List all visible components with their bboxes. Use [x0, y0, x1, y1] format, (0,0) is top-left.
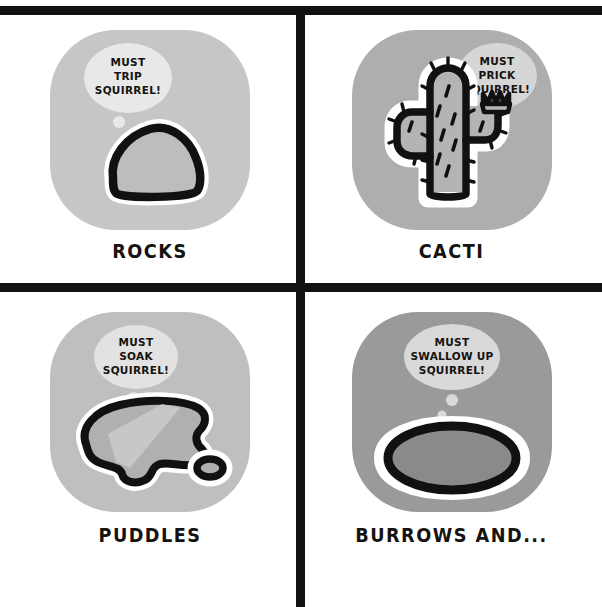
bubble-line-3: SQUIRREL!	[418, 364, 484, 376]
bubble-line-2: SOAK	[119, 350, 153, 362]
bubble-line-1: MUST	[111, 56, 146, 68]
burrow-scene: MUST SWALLOW UP SQUIRREL!	[352, 312, 552, 512]
thought-bubble-dot	[446, 394, 458, 406]
rock-body	[113, 128, 201, 197]
bubble-line-2: TRIP	[114, 70, 142, 82]
rock-icon	[113, 128, 201, 197]
panel-burrows-tile: MUST SWALLOW UP SQUIRREL!	[352, 312, 552, 512]
bubble-line-2: PRICK	[478, 69, 516, 81]
bubble-line-3: SQUIRREL!	[95, 84, 161, 96]
bubble-line-1: MUST	[479, 55, 514, 67]
panel-rocks: MUST TRIP SQUIRREL! ROCKS	[4, 16, 296, 283]
bubble-line-3: SQUIRREL!	[103, 364, 169, 376]
panel-rocks-tile: MUST TRIP SQUIRREL!	[50, 30, 250, 230]
panel-caption-cacti: CACTI	[315, 240, 587, 262]
comic-strip: MUST TRIP SQUIRREL! ROCKS MUST	[0, 0, 602, 607]
burrow-opening	[388, 426, 516, 490]
frame-line-vertical	[296, 6, 305, 607]
burrow-hole-icon	[382, 424, 522, 492]
puddle-icon	[85, 401, 225, 483]
panel-puddles-tile: MUST SOAK SQUIRREL!	[50, 312, 250, 512]
panel-cacti: MUST PRICK SQUIRREL!	[305, 16, 598, 283]
rock-scene: MUST TRIP SQUIRREL!	[50, 30, 250, 230]
bubble-line-2: SWALLOW UP	[410, 350, 493, 362]
puddle-droplet-icon	[195, 457, 225, 479]
panel-caption-burrows: BURROWS AND...	[315, 524, 587, 546]
bubble-line-1: MUST	[119, 336, 154, 348]
panel-caption-puddles: PUDDLES	[14, 524, 286, 546]
panel-cacti-tile: MUST PRICK SQUIRREL!	[352, 30, 552, 230]
puddle-scene: MUST SOAK SQUIRREL!	[50, 312, 250, 512]
panel-caption-rocks: ROCKS	[14, 240, 286, 262]
bubble-line-1: MUST	[434, 336, 469, 348]
cactus-scene: MUST PRICK SQUIRREL!	[352, 30, 552, 230]
panel-burrows: MUST SWALLOW UP SQUIRREL! BURROWS AND...	[305, 292, 598, 602]
panel-puddles: MUST SOAK SQUIRREL! PUDDLES	[4, 292, 296, 602]
thought-bubble-burrows: MUST SWALLOW UP SQUIRREL!	[404, 324, 500, 420]
thought-bubble-dot	[113, 116, 125, 128]
